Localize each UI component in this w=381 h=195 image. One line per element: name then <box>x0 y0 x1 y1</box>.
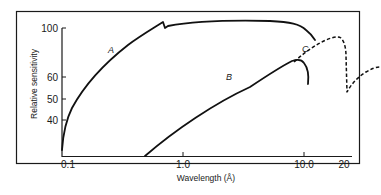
curve-label-b: B <box>226 72 232 82</box>
sensitivity-chart: 100 60 50 40 0.1 1.0 10.0 20 Wavelength … <box>0 0 381 195</box>
y-tick-label-50: 50 <box>47 94 59 105</box>
chart-frame <box>17 12 360 164</box>
curve-a <box>62 21 315 150</box>
y-tick-label-60: 60 <box>47 72 59 83</box>
x-tick-label-10.0: 10.0 <box>294 159 314 170</box>
y-tick-label-100: 100 <box>41 23 58 34</box>
x-tick-label-0.1: 0.1 <box>61 159 75 170</box>
x-axis-title: Wavelength (Å) <box>177 173 235 183</box>
x-tick-label-1.0: 1.0 <box>176 159 190 170</box>
y-axis-title: Relative sensitivity <box>29 48 39 119</box>
curve-label-a: A <box>107 45 114 55</box>
curve-label-c: C <box>302 44 309 54</box>
y-tick-label-40: 40 <box>47 115 59 126</box>
x-tick-label-20: 20 <box>338 159 350 170</box>
